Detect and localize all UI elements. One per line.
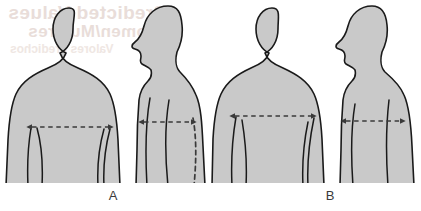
panel-a-front-body-silhouette	[6, 8, 120, 186]
panel-b-side-figure	[336, 6, 414, 186]
panel-b-side-body-silhouette	[336, 6, 414, 186]
panel-b-front-figure	[212, 8, 324, 186]
panel-label-b: B	[315, 188, 345, 203]
panel-a-side-body-silhouette	[132, 6, 205, 186]
figure-container: Predicted Values Women/Mujeres Valores p…	[0, 0, 421, 211]
panel-a-front-figure	[6, 8, 120, 186]
panel-label-a: A	[98, 188, 128, 203]
panel-b-front-body-silhouette	[212, 8, 324, 186]
anatomical-figure-svg	[0, 0, 421, 211]
panel-a-side-figure	[132, 6, 205, 186]
